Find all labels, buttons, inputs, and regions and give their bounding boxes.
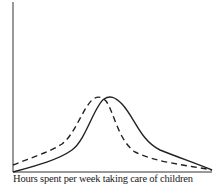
x-axis-label: Hours spent per week taking care of chil… bbox=[13, 173, 193, 184]
chart bbox=[0, 0, 224, 193]
solid-curve bbox=[13, 97, 212, 172]
